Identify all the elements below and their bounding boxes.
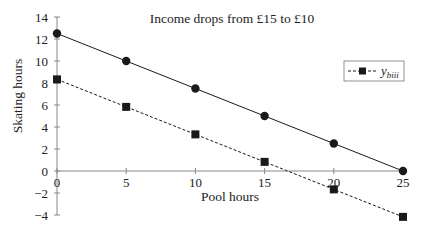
y-tick-label: −2 <box>34 186 48 201</box>
y-tick-label: −4 <box>34 208 48 223</box>
legend: ybiii <box>344 61 404 81</box>
y-tick-label: 8 <box>42 76 49 91</box>
square-marker-icon <box>53 75 61 83</box>
x-tick-label: 25 <box>397 175 410 190</box>
y-tick-label: 0 <box>42 164 49 179</box>
y-tick-label: 2 <box>42 142 49 157</box>
circle-marker-icon <box>191 84 199 92</box>
square-marker-icon <box>399 213 407 221</box>
circle-marker-icon <box>122 57 130 65</box>
circle-marker-icon <box>53 29 61 37</box>
y-tick-label: 12 <box>35 32 48 47</box>
circle-marker-icon <box>260 112 268 120</box>
y-tick-label: 10 <box>35 54 48 69</box>
y-axis-label: Skating hours <box>10 59 25 134</box>
square-marker-icon <box>330 185 338 193</box>
x-tick-label: 15 <box>258 175 271 190</box>
x-tick-label: 0 <box>54 175 61 190</box>
circle-marker-icon <box>330 139 338 147</box>
y-tick-label: 4 <box>42 120 49 135</box>
line-chart: −4−2024681012140510152025 Income drops f… <box>0 0 428 234</box>
y-tick-label: 6 <box>42 98 49 113</box>
series-line-1 <box>57 34 403 172</box>
x-tick-label: 10 <box>189 175 202 190</box>
circle-marker-icon <box>399 167 407 175</box>
square-marker-icon <box>261 158 269 166</box>
y-tick-label: 14 <box>35 10 49 25</box>
x-axis-label: Pool hours <box>201 189 259 204</box>
square-marker-icon <box>122 103 130 111</box>
x-tick-label: 5 <box>123 175 130 190</box>
legend-square-marker-icon <box>359 68 366 75</box>
chart-title: Income drops from £15 to £10 <box>150 11 315 26</box>
chart-container: −4−2024681012140510152025 Income drops f… <box>0 0 428 234</box>
square-marker-icon <box>191 130 199 138</box>
